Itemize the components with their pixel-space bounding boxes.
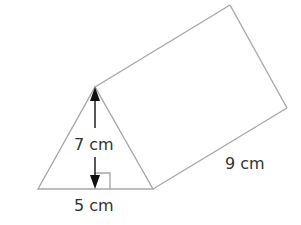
length-label: 9 cm: [225, 154, 265, 173]
height-label: 7 cm: [74, 135, 114, 154]
bottom-length-edge: [153, 108, 287, 189]
base-label: 5 cm: [74, 196, 114, 215]
back-edge: [230, 5, 287, 108]
triangular-prism-diagram: 7 cm 5 cm 9 cm: [0, 0, 301, 225]
arrow-down-icon: [90, 175, 100, 189]
top-edge: [95, 5, 230, 87]
